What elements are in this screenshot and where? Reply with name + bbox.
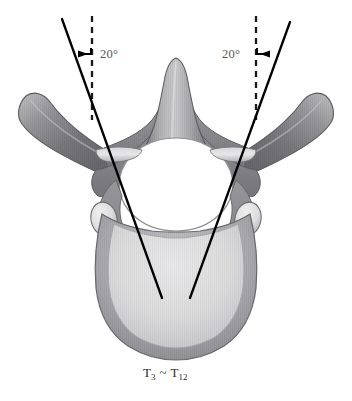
figure-root: 20° 20° T3~T12 xyxy=(0,0,352,401)
caption-t-prefix-end: T xyxy=(171,365,179,380)
left-angle-label: 20° xyxy=(100,47,118,61)
caption-t-prefix-start: T xyxy=(143,365,151,380)
caption-end-level: 12 xyxy=(178,372,187,382)
vertebra-diagram: 20° 20° T3~T12 xyxy=(0,0,352,401)
caption-start-level: 3 xyxy=(151,372,156,382)
right-angle-label: 20° xyxy=(222,47,240,61)
caption-separator: ~ xyxy=(159,365,166,380)
vertebral-body-cancellous xyxy=(108,224,244,348)
